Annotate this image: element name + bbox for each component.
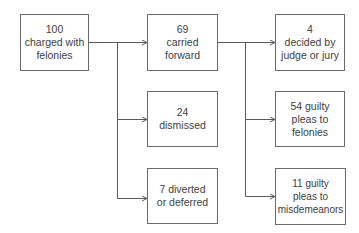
node-charged-with-felonies: 100 charged with felonies (20, 14, 89, 71)
node-guilty-pleas-felonies: 54 guilty pleas to felonies (275, 91, 345, 147)
node-guilty-pleas-misdemeanors: 11 guilty pleas to misdemeanors (275, 168, 346, 225)
node-text: pleas to (290, 113, 329, 126)
node-text: decided by (281, 36, 339, 49)
connector-carried (217, 43, 275, 197)
node-text: misdemeanors (278, 203, 344, 216)
node-text: carried (165, 36, 200, 49)
node-text: 11 guilty (278, 177, 344, 190)
node-text: dismissed (159, 119, 206, 132)
node-text: 69 (165, 23, 200, 36)
node-text: forward (165, 49, 200, 62)
node-dismissed: 24 dismissed (147, 91, 218, 147)
node-text: felonies (25, 49, 85, 62)
node-text: felonies (290, 126, 329, 139)
node-decided-by-judge-or-jury: 4 decided by judge or jury (275, 14, 345, 71)
node-text: 54 guilty (290, 100, 329, 113)
node-text: 4 (281, 23, 339, 36)
connector-charged (88, 43, 147, 199)
node-carried-forward: 69 carried forward (147, 14, 218, 71)
flowchart-canvas: 100 charged with felonies 69 carried for… (0, 0, 359, 233)
node-text: 24 (159, 106, 206, 119)
node-diverted-or-deferred: 7 diverted or deferred (147, 168, 218, 224)
node-text: judge or jury (281, 49, 339, 62)
node-text: pleas to (278, 190, 344, 203)
node-text: charged with (25, 36, 85, 49)
node-text: or deferred (157, 196, 208, 209)
node-text: 100 (25, 23, 85, 36)
node-text: 7 diverted (157, 183, 208, 196)
